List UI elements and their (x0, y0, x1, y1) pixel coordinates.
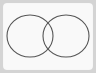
venn-set-b-ellipse (43, 15, 89, 57)
venn-diagram (0, 0, 96, 73)
diagram-frame (0, 0, 96, 73)
venn-set-a-ellipse (7, 15, 53, 57)
